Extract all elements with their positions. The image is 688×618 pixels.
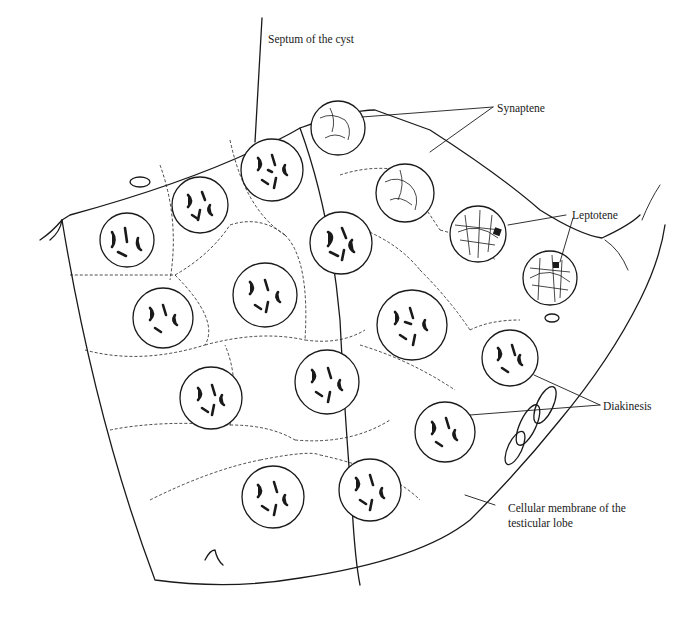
label-membrane-line2: testicular lobe [508, 517, 573, 530]
label-leptotene: Leptotene [572, 209, 618, 222]
dark-nuclei [100, 139, 538, 528]
label-septum: Septum of the cyst [268, 33, 354, 46]
label-diakinesis: Diakinesis [603, 400, 652, 413]
label-membrane-line1: Cellular membrane of the [508, 502, 626, 515]
diagram-drawing [0, 0, 688, 618]
testicular-lobe-diagram: Septum of the cyst Synaptene Leptotene D… [0, 0, 688, 618]
label-synaptene: Synaptene [497, 102, 545, 115]
septum-line [255, 18, 262, 142]
